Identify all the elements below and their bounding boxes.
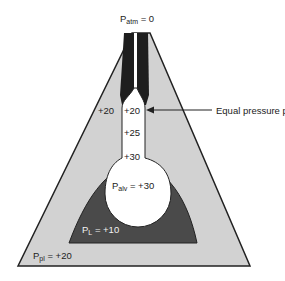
- equal-pressure-point-label: Equal pressure point: [216, 106, 285, 116]
- atmospheric-pressure-label: Patm = 0: [120, 14, 154, 25]
- airway-pressure-value: +30: [124, 152, 140, 162]
- airway-pressure-value: +20: [124, 106, 140, 116]
- pressure-diagram: [0, 0, 285, 281]
- airway-lumen-collapsed: [134, 33, 137, 90]
- alveolar-pressure-label: Palv = +30: [112, 181, 154, 192]
- pleural-pressure-label: Ppl = +20: [33, 251, 72, 262]
- lung-pressure-label: PL = +10: [82, 225, 119, 236]
- airway-pressure-value: +25: [124, 128, 140, 138]
- outside-pressure-value: +20: [98, 106, 114, 116]
